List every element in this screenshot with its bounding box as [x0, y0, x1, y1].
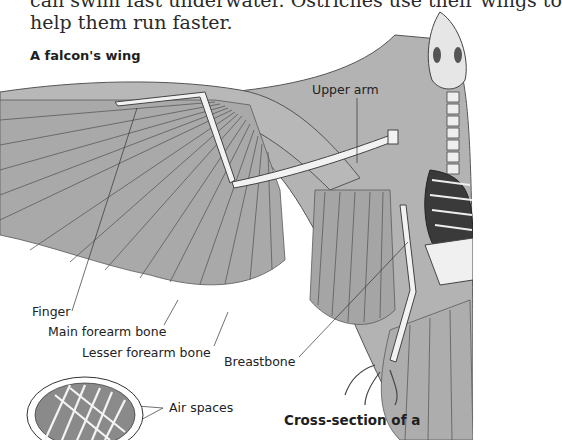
spine: [447, 92, 459, 174]
label-finger: Finger: [32, 304, 70, 319]
primary-feathers: [0, 100, 285, 285]
label-main-forearm-bone: Main forearm bone: [48, 324, 166, 339]
bone-cross-section: [27, 377, 143, 440]
inset-caption: Cross-section of a: [284, 412, 420, 428]
secondary-feathers: [310, 190, 395, 324]
label-breastbone: Breastbone: [224, 354, 295, 369]
label-upper-arm: Upper arm: [312, 82, 379, 97]
label-lesser-forearm-bone: Lesser forearm bone: [82, 345, 211, 360]
label-air-spaces: Air spaces: [169, 400, 233, 415]
